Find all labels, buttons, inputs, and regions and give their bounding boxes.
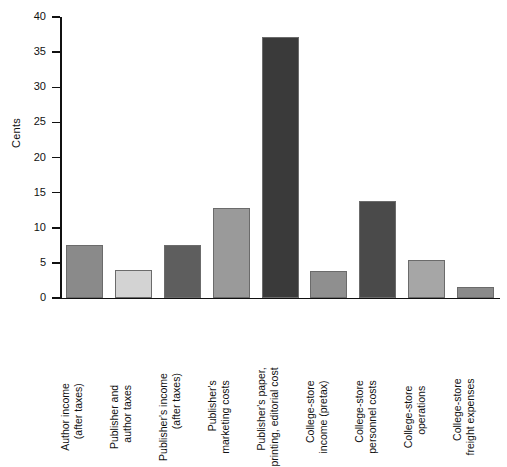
x-axis-label-text: Publisher's paper,printing, editorial co…: [255, 367, 280, 466]
x-axis-labels: Author income(after taxes)Publisher anda…: [60, 303, 500, 419]
x-axis-label: College-storefreight expenses: [451, 303, 500, 417]
bar: [310, 271, 347, 298]
x-axis-label-text: College-storepersonnel costs: [353, 380, 378, 454]
y-axis-tick: [52, 227, 60, 229]
x-axis-label: Publisher's paper,printing, editorial co…: [256, 303, 305, 417]
y-axis-tick: [52, 51, 60, 53]
bar: [457, 287, 494, 298]
x-axis-label: College-storepersonnel costs: [353, 303, 402, 417]
x-axis-label: College-storeoperations: [402, 303, 451, 417]
bar: [359, 201, 396, 298]
bar: [262, 37, 299, 298]
y-axis-tick: [52, 192, 60, 194]
y-axis-tick-label: 10: [12, 222, 46, 233]
x-axis-label: Publisher andauthor taxes: [109, 303, 158, 417]
bar: [213, 208, 250, 298]
x-axis-label-text: Author income(after taxes): [59, 383, 84, 451]
y-axis-tick: [52, 297, 60, 299]
x-axis-label-text: Publisher andauthor taxes: [108, 385, 133, 449]
bar: [66, 245, 103, 298]
x-axis-label-text: Publisher'smarketing costs: [206, 380, 231, 454]
x-axis-label-text: College-storeoperations: [402, 386, 427, 448]
y-axis-tick-label: 30: [12, 81, 46, 92]
y-axis-tick-label: 25: [12, 116, 46, 127]
y-axis-tick: [52, 87, 60, 89]
x-axis-label: College-storeincome (pretax): [304, 303, 353, 417]
y-axis-tick-label: 40: [12, 11, 46, 22]
x-axis-label-text: Publisher's income(after taxes): [157, 373, 182, 461]
bar: [164, 245, 201, 298]
y-axis-tick: [52, 262, 60, 264]
y-axis-tick-label: 0: [12, 292, 46, 303]
y-axis-tick-label: 15: [12, 187, 46, 198]
y-axis-tick: [52, 122, 60, 124]
y-axis-tick-label: 35: [12, 46, 46, 57]
x-axis-label: Publisher'smarketing costs: [207, 303, 256, 417]
x-axis-label: Author income(after taxes): [60, 303, 109, 417]
y-axis-tick: [52, 16, 60, 18]
plot-area: [60, 17, 500, 298]
x-axis-label-text: College-storeincome (pretax): [304, 381, 329, 454]
x-axis-label: Publisher's income(after taxes): [158, 303, 207, 417]
bar: [115, 270, 152, 298]
bar: [408, 260, 445, 298]
x-axis-label-text: College-storefreight expenses: [451, 378, 476, 455]
y-axis-tick-label: 5: [12, 257, 46, 268]
y-axis-tick: [52, 157, 60, 159]
y-axis-tick-label: 20: [12, 152, 46, 163]
